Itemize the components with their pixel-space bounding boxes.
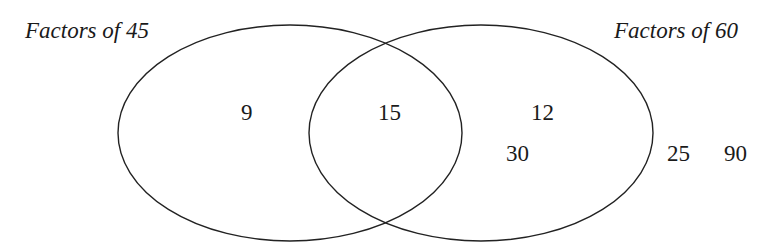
outside-value: 25 (667, 141, 690, 167)
region-only-60-value: 30 (506, 141, 529, 167)
set-label-60: Factors of 60 (614, 18, 738, 44)
region-only-45-value: 9 (241, 100, 253, 126)
set-label-45: Factors of 45 (25, 18, 149, 44)
outside-value: 90 (724, 141, 747, 167)
region-both-value: 15 (378, 100, 401, 126)
set-60-ellipse (309, 25, 653, 241)
set-45-ellipse (118, 25, 462, 241)
region-only-60-value: 12 (531, 100, 554, 126)
